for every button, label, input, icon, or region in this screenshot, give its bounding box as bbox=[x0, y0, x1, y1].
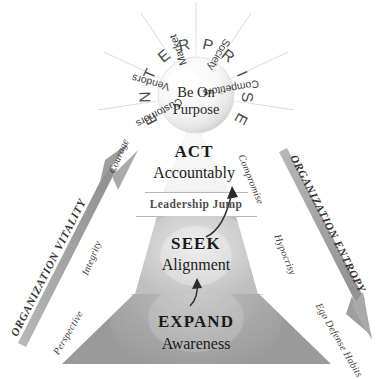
leadership-jump-label: Leadership Jump bbox=[136, 199, 256, 211]
tier-act-title: ACT bbox=[156, 143, 232, 160]
purpose-line-2: Purpose bbox=[158, 101, 234, 118]
tier-expand-subtitle: Awareness bbox=[141, 336, 251, 352]
tier-seek-title: SEEK bbox=[158, 235, 234, 252]
tier-expand-title: EXPAND bbox=[146, 313, 246, 330]
tier-seek-subtitle: Alignment bbox=[146, 257, 246, 273]
purpose-text: Be On Purpose bbox=[158, 84, 234, 118]
purpose-line-1: Be On bbox=[158, 84, 234, 101]
enterprise-letter: N bbox=[136, 90, 154, 103]
tier-act-subtitle: Accountably bbox=[141, 165, 247, 181]
diagram-canvas: ENTERPRISE CustomersVendorsMarketSociety… bbox=[0, 0, 389, 379]
